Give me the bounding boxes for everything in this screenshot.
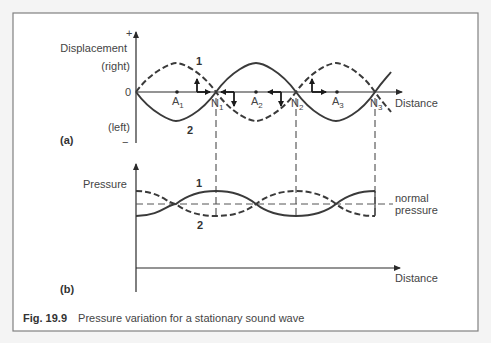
curve-2-label: 2: [187, 124, 193, 136]
left-label: (left): [108, 121, 130, 133]
antinode-a3-dot: [335, 90, 339, 94]
figure-number: Fig. 19.9: [23, 312, 67, 324]
normal-pressure-label-1: normal: [395, 192, 429, 204]
pressure-axis-label: Pressure: [83, 178, 127, 190]
normal-pressure-label-2: pressure: [395, 204, 438, 216]
pressure-curve-1-label: 1: [196, 177, 202, 189]
panel-b-tag: (b): [60, 283, 74, 295]
displacement-distance-label: Distance: [395, 97, 438, 109]
figure-caption-text: Pressure variation for a stationary soun…: [78, 312, 304, 324]
y-plus-label: +: [126, 27, 132, 39]
panel-a-tag: (a): [60, 134, 74, 146]
antinode-a2-dot: [254, 90, 258, 94]
y-minus-label: −: [122, 136, 128, 148]
right-label: (right): [101, 60, 130, 72]
curve-1-label: 1: [196, 55, 202, 67]
antinode-a1-dot: [175, 90, 179, 94]
origin-label: 0: [125, 86, 131, 98]
pressure-curve-2-label: 2: [197, 219, 203, 231]
figure-canvas: + Displacement (right) 0 (left) − (a) Di…: [0, 0, 491, 343]
pressure-distance-label: Distance: [395, 272, 438, 284]
displacement-axis-label: Displacement: [60, 42, 127, 54]
figure-caption: Fig. 19.9 Pressure variation for a stati…: [23, 312, 304, 324]
